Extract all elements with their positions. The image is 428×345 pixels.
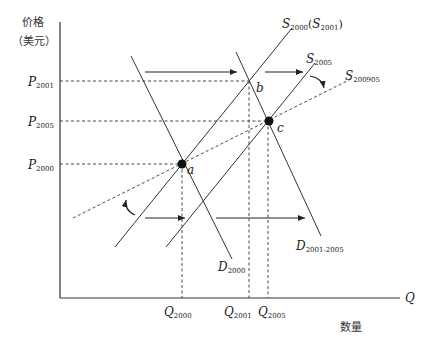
- x-axis-symbol: Q: [405, 291, 415, 305]
- point-b-label: b: [256, 81, 264, 95]
- s200905-label: S200905: [345, 69, 380, 84]
- supply-demand-chart: 价格 （美元） Q 数量 a b c P2001 P2005 P2000 Q20…: [0, 0, 428, 345]
- point-c-label: c: [277, 121, 284, 135]
- point-a-label: a: [187, 163, 194, 177]
- p2001-label: P2001: [27, 75, 54, 90]
- q2005-label: Q2005: [258, 305, 286, 320]
- p2005-label: P2005: [27, 115, 54, 130]
- y-axis-title-line2: （美元）: [12, 35, 56, 48]
- s2000-label: S2000(S2001): [282, 17, 343, 32]
- supply-200905-line: [73, 78, 353, 218]
- s2005-label: S2005: [306, 52, 332, 67]
- d2001-2005-label: D2001-2005: [295, 239, 344, 254]
- q2001-label: Q2001: [224, 305, 252, 320]
- equilibrium-point-c: [265, 117, 274, 126]
- p2000-label: P2000: [27, 158, 54, 173]
- supply-2005-line: [166, 63, 315, 247]
- x-axis-title: 数量: [340, 321, 362, 334]
- d2000-label: D2000: [217, 260, 245, 275]
- equilibrium-point-a: [178, 160, 187, 169]
- q2000-label: Q2000: [164, 305, 192, 320]
- rotation-arrow-lower: [126, 200, 135, 215]
- supply-2000-line: [115, 28, 292, 247]
- rotation-arrow-upper: [310, 76, 324, 88]
- y-axis-title-line1: 价格: [22, 15, 44, 29]
